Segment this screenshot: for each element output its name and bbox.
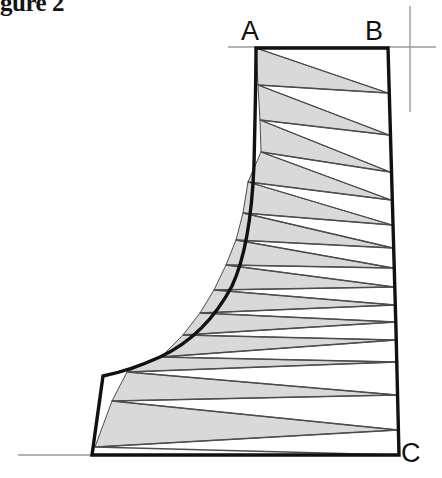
band: [112, 372, 397, 401]
cross-section-diagram: ABC: [0, 0, 442, 478]
label-b: B: [365, 16, 383, 46]
band: [95, 401, 398, 447]
label-c: C: [401, 438, 421, 468]
band: [214, 265, 394, 290]
figure-page: gure 2 ABC: [0, 0, 442, 478]
shaded-bands: [95, 48, 398, 447]
band: [161, 335, 396, 357]
label-a: A: [241, 16, 259, 46]
